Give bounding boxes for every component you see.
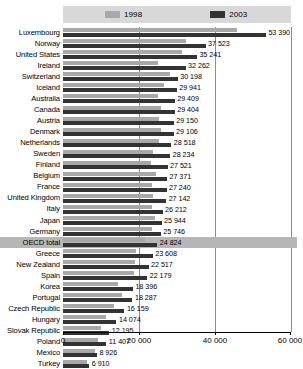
bar-row: Germany25 746 xyxy=(0,226,297,237)
bar-value-label: 29 106 xyxy=(176,128,198,135)
bar-2003 xyxy=(63,132,174,136)
bar-1998 xyxy=(63,161,151,165)
bar-1998 xyxy=(63,304,114,308)
bar-value-label: 14 074 xyxy=(119,316,141,323)
bar-2003 xyxy=(63,287,133,291)
category-label: Belgium xyxy=(0,172,63,180)
category-label: Canada xyxy=(0,106,63,114)
category-label: Korea xyxy=(0,283,63,291)
bars-cell: 14 074 xyxy=(63,314,297,325)
axis-tick xyxy=(290,332,291,335)
bar-1998 xyxy=(63,83,164,87)
bars-cell: 18 396 xyxy=(63,281,297,292)
category-label: Luxembourg xyxy=(0,29,63,37)
category-label: Turkey xyxy=(0,360,63,368)
bars-cell: 28 518 xyxy=(63,137,297,148)
category-label: France xyxy=(0,183,63,191)
bar-1998 xyxy=(63,260,135,264)
bars-cell: 29 404 xyxy=(63,104,297,115)
bars-cell: 29 409 xyxy=(63,93,297,104)
category-label: Germany xyxy=(0,228,63,236)
axis-tick xyxy=(139,332,140,335)
bar-2003 xyxy=(63,221,162,225)
bar-row: Norway37 523 xyxy=(0,38,297,49)
bar-value-label: 16 159 xyxy=(127,305,149,312)
bar-row: Japan25 944 xyxy=(0,215,297,226)
legend-label-1998: 1998 xyxy=(124,11,142,19)
bars-cell: 25 944 xyxy=(63,215,297,226)
bar-2003 xyxy=(63,88,177,92)
bar-1998 xyxy=(63,238,145,242)
bar-2003 xyxy=(63,243,157,247)
category-label: Iceland xyxy=(0,84,63,92)
bar-row: Turkey6 910 xyxy=(0,358,297,369)
bar-2003 xyxy=(63,143,171,147)
bars-cell: 18 287 xyxy=(63,292,297,303)
chart-legend: 1998 2003 xyxy=(63,6,291,23)
bar-1998 xyxy=(63,194,153,198)
bars-cell: 37 523 xyxy=(63,38,297,49)
bar-row: Sweden28 234 xyxy=(0,149,297,160)
bar-value-label: 6 910 xyxy=(92,360,110,367)
bar-value-label: 29 941 xyxy=(179,84,201,91)
bar-value-label: 29 150 xyxy=(176,117,198,124)
bar-value-label: 27 521 xyxy=(170,162,192,169)
category-label: United States xyxy=(0,51,63,59)
category-label: Ireland xyxy=(0,62,63,70)
legend-swatch-1998-icon xyxy=(105,11,120,18)
bar-2003 xyxy=(63,276,147,280)
bar-row: France27 240 xyxy=(0,182,297,193)
category-label: Greece xyxy=(0,250,63,258)
bars-cell: 32 262 xyxy=(63,60,297,71)
bars-cell: 23 608 xyxy=(63,248,297,259)
bar-2003 xyxy=(63,154,170,158)
bar-1998 xyxy=(63,50,182,54)
bar-1998 xyxy=(63,172,156,176)
bar-row: Netherlands28 518 xyxy=(0,137,297,148)
bar-value-label: 18 287 xyxy=(135,294,157,301)
bar-value-label: 29 404 xyxy=(177,106,199,113)
bars-cell: 29 150 xyxy=(63,115,297,126)
bar-1998 xyxy=(63,360,87,364)
category-label: Japan xyxy=(0,217,63,225)
bar-row: United States35 241 xyxy=(0,49,297,60)
bars-cell: 28 234 xyxy=(63,149,297,160)
bar-value-label: 25 944 xyxy=(164,217,186,224)
bars-cell: 16 159 xyxy=(63,303,297,314)
bar-value-label: 27 240 xyxy=(169,184,191,191)
category-label: Italy xyxy=(0,205,63,213)
bar-value-label: 18 396 xyxy=(135,283,157,290)
bar-row: Spain22 179 xyxy=(0,270,297,281)
bar-1998 xyxy=(63,315,106,319)
category-label: United Kingdom xyxy=(0,194,63,202)
bars-cell: 27 371 xyxy=(63,171,297,182)
category-label: Slovak Republic xyxy=(0,327,63,335)
bar-2003 xyxy=(63,165,168,169)
bar-value-label: 27 371 xyxy=(170,173,192,180)
bar-1998 xyxy=(63,249,136,253)
bar-1998 xyxy=(63,39,186,43)
bar-1998 xyxy=(63,293,122,297)
bar-row: Czech Republic16 159 xyxy=(0,303,297,314)
category-label: Finland xyxy=(0,161,63,169)
x-axis: 020 00040 00060 000 xyxy=(63,332,291,358)
bar-value-label: 22 517 xyxy=(151,261,173,268)
bar-row: OECD total24 824 xyxy=(0,237,297,248)
category-label: Hungary xyxy=(0,316,63,324)
bar-2003 xyxy=(63,66,186,70)
bar-row: Italy26 212 xyxy=(0,204,297,215)
bar-1998 xyxy=(63,282,118,286)
bar-2003 xyxy=(63,177,167,181)
bar-1998 xyxy=(63,72,170,76)
bar-value-label: 23 608 xyxy=(155,250,177,257)
bar-row: Belgium27 371 xyxy=(0,171,297,182)
bars-cell: 27 240 xyxy=(63,182,297,193)
category-label: Mexico xyxy=(0,349,63,357)
category-label: Spain xyxy=(0,272,63,280)
bar-2003 xyxy=(63,199,166,203)
bars-cell: 22 179 xyxy=(63,270,297,281)
bar-2003 xyxy=(63,99,175,103)
bar-2003 xyxy=(63,121,174,125)
bar-value-label: 37 523 xyxy=(208,40,230,47)
bars-cell: 53 390 xyxy=(63,27,297,38)
